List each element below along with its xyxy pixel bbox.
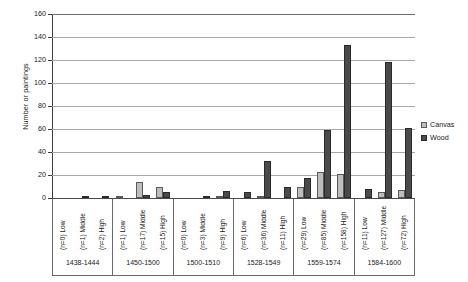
bar-wood[interactable] bbox=[82, 196, 89, 198]
y-axis-tick-label: 160 bbox=[34, 9, 46, 19]
period-label: 1438-1444 bbox=[52, 252, 113, 276]
bar-canvas[interactable] bbox=[337, 174, 344, 198]
y-axis-tick-label: 40 bbox=[38, 147, 46, 157]
category-label-cell: (n=36) Middle bbox=[254, 199, 274, 252]
bar-canvas[interactable] bbox=[317, 172, 324, 198]
bar-wood[interactable] bbox=[405, 128, 412, 198]
y-axis-tick: 60 bbox=[0, 124, 52, 134]
bar-wood[interactable] bbox=[365, 189, 372, 198]
category-label-cell: (n=85) Middle bbox=[314, 199, 334, 252]
bar-wood[interactable] bbox=[324, 130, 331, 198]
category-label-cell: (n=17) Middle bbox=[133, 199, 153, 252]
y-axis-tick: 140 bbox=[0, 32, 52, 42]
category-label: (n=36) Middle bbox=[260, 210, 267, 251]
period-group bbox=[234, 14, 295, 198]
legend-swatch-canvas bbox=[421, 122, 427, 128]
bar-canvas[interactable] bbox=[216, 196, 223, 198]
category-label: (n=3) Middle bbox=[200, 213, 207, 250]
bar-wood[interactable] bbox=[102, 196, 109, 198]
y-axis-tick: 20 bbox=[0, 170, 52, 180]
y-axis-tick-label: 80 bbox=[38, 101, 46, 111]
period-axis-labels: 1438-14441450-15001500-15101528-15491559… bbox=[52, 252, 415, 276]
category-label: (n=85) Middle bbox=[320, 210, 327, 251]
bar-canvas[interactable] bbox=[116, 196, 123, 198]
category-label-cell: (n=29) Low bbox=[294, 199, 314, 252]
bar-pair bbox=[133, 14, 153, 198]
bar-pair bbox=[92, 14, 112, 198]
y-axis-tick-label: 20 bbox=[38, 170, 46, 180]
bar-pair bbox=[334, 14, 354, 198]
legend-item[interactable]: Canvas bbox=[421, 120, 467, 129]
category-label: (n=127) Middle bbox=[381, 206, 388, 250]
bar-wood[interactable] bbox=[203, 196, 210, 198]
category-label: (n=15) High bbox=[159, 215, 166, 250]
bar-wood[interactable] bbox=[143, 195, 150, 198]
bar-canvas[interactable] bbox=[257, 196, 264, 198]
y-axis-tick-label: 140 bbox=[34, 32, 46, 42]
period-label: 1559-1574 bbox=[294, 252, 354, 276]
bar-wood[interactable] bbox=[223, 191, 230, 198]
plot-area bbox=[52, 14, 415, 198]
category-label-cell: (n=3) Middle bbox=[193, 199, 213, 252]
category-label-cell: (n=158) High bbox=[334, 199, 354, 252]
bar-pair bbox=[113, 14, 133, 198]
y-axis-tick: 120 bbox=[0, 55, 52, 65]
bar-canvas[interactable] bbox=[297, 187, 304, 199]
category-label: (n=0) Low bbox=[59, 220, 66, 250]
bar-wood[interactable] bbox=[344, 45, 351, 198]
bar-pair bbox=[173, 14, 193, 198]
bar-pair bbox=[355, 14, 375, 198]
y-axis-tick: 0 bbox=[0, 193, 52, 203]
category-label: (n=158) High bbox=[340, 212, 347, 250]
category-label-group: (n=6) Low(n=36) Middle(n=11) High bbox=[234, 199, 294, 252]
bar-canvas[interactable] bbox=[398, 190, 405, 198]
period-group bbox=[52, 14, 113, 198]
bar-pair bbox=[72, 14, 92, 198]
legend-label: Canvas bbox=[430, 120, 454, 129]
axis-bottom-rule bbox=[52, 275, 415, 276]
y-axis-tick-label: 100 bbox=[34, 78, 46, 88]
y-axis-tick-label: 60 bbox=[38, 124, 46, 134]
category-label-group: (n=1) Low(n=17) Middle(n=15) High bbox=[113, 199, 173, 252]
bar-pair bbox=[395, 14, 415, 198]
legend: CanvasWood bbox=[421, 120, 467, 146]
legend-swatch-wood bbox=[421, 135, 427, 141]
y-axis-tick-label: 120 bbox=[34, 55, 46, 65]
bar-wood[interactable] bbox=[264, 161, 271, 198]
bar-pair bbox=[234, 14, 254, 198]
category-label: (n=2) High bbox=[99, 219, 106, 250]
category-label-cell: (n=0) Low bbox=[53, 199, 73, 252]
bar-pair bbox=[375, 14, 395, 198]
category-label-cell: (n=1) Middle bbox=[73, 199, 93, 252]
bar-canvas[interactable] bbox=[156, 187, 163, 199]
bar-wood[interactable] bbox=[244, 192, 251, 198]
bar-wood[interactable] bbox=[304, 178, 311, 198]
category-label: (n=11) Low bbox=[361, 217, 368, 250]
category-label-group: (n=29) Low(n=85) Middle(n=158) High bbox=[294, 199, 354, 252]
bar-wood[interactable] bbox=[385, 62, 392, 198]
bar-pair bbox=[193, 14, 213, 198]
bar-pair bbox=[213, 14, 233, 198]
category-label-cell: (n=11) High bbox=[274, 199, 294, 252]
legend-label: Wood bbox=[430, 133, 449, 142]
category-label: (n=17) Middle bbox=[139, 210, 146, 251]
category-label-cell: (n=9) High bbox=[213, 199, 233, 252]
bar-canvas[interactable] bbox=[136, 182, 143, 198]
category-label-cell: (n=2) High bbox=[93, 199, 113, 252]
bar-pair bbox=[314, 14, 334, 198]
y-axis-tick: 80 bbox=[0, 101, 52, 111]
bar-wood[interactable] bbox=[284, 187, 291, 199]
y-axis-tick-label: 0 bbox=[42, 193, 46, 203]
category-label-cell: (n=11) Low bbox=[355, 199, 375, 252]
period-label: 1450-1500 bbox=[113, 252, 173, 276]
bar-canvas[interactable] bbox=[378, 192, 385, 198]
bar-wood[interactable] bbox=[163, 192, 170, 198]
category-label: (n=9) High bbox=[220, 219, 227, 250]
period-label: 1528-1549 bbox=[234, 252, 294, 276]
bar-pair bbox=[52, 14, 72, 198]
period-group bbox=[355, 14, 416, 198]
category-label: (n=0) Low bbox=[180, 220, 187, 250]
bar-pair bbox=[254, 14, 274, 198]
legend-item[interactable]: Wood bbox=[421, 133, 467, 142]
period-group bbox=[294, 14, 355, 198]
